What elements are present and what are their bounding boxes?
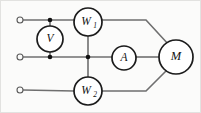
- wattmeter-1-subscript: 1: [93, 21, 97, 30]
- wattmeter-2-subscript: 2: [93, 90, 97, 99]
- terminal-line-1[interactable]: [17, 17, 23, 23]
- terminal-group: [17, 17, 23, 93]
- circuit-schematic: V W 1 W 2 A M: [0, 0, 201, 113]
- node-middle-mid: [86, 55, 91, 60]
- terminal-line-3[interactable]: [17, 87, 23, 93]
- component-motor[interactable]: M: [159, 40, 193, 74]
- component-wattmeter-2[interactable]: W 2: [74, 77, 102, 105]
- wire-terminal3-to-w2: [23, 90, 74, 91]
- terminal-line-2[interactable]: [17, 54, 23, 60]
- wattmeter-2-label: W: [81, 84, 92, 96]
- ammeter-label: A: [119, 51, 128, 63]
- motor-label: M: [170, 49, 182, 63]
- component-voltmeter[interactable]: V: [37, 26, 63, 52]
- circuit-diagram-canvas: V W 1 W 2 A M: [0, 0, 201, 113]
- component-ammeter[interactable]: A: [112, 46, 136, 70]
- wire-w2-to-motor: [102, 69, 168, 91]
- wattmeter-1-label: W: [81, 15, 92, 27]
- node-top: [48, 18, 53, 23]
- wire-w1-to-motor: [102, 20, 169, 45]
- component-wattmeter-1[interactable]: W 1: [74, 8, 102, 36]
- node-middle-left: [48, 55, 53, 60]
